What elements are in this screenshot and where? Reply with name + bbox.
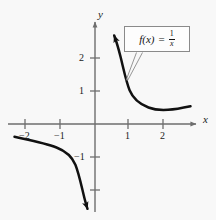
x-axis-label: x: [203, 114, 208, 125]
y-tick-label-pos2: 2: [79, 53, 84, 63]
function-label-callout: f(x) = 1 x: [124, 26, 190, 52]
x-tick-label-pos1: 1: [125, 131, 130, 141]
curve-branch-negative: [15, 137, 88, 209]
y-tick-label-neg1: −1: [74, 152, 85, 162]
y-axis-label: y: [98, 9, 103, 20]
x-tick-label-pos2: 2: [160, 131, 165, 141]
function-graph-figure: y x −2 −1 1 2 2 1 −1 f(x) = 1 x: [0, 0, 216, 220]
callout-leader-line: [126, 53, 143, 81]
function-formula: f(x) = 1 x: [139, 30, 174, 48]
fraction-numerator: 1: [169, 30, 175, 38]
y-tick-label-pos1: 1: [79, 86, 84, 96]
x-tick-label-neg2: −2: [19, 131, 30, 141]
formula-fraction: 1 x: [169, 30, 175, 48]
formula-equals-sign: =: [159, 34, 165, 45]
x-tick-label-neg1: −1: [54, 131, 65, 141]
formula-left-side: f(x): [139, 34, 154, 45]
fraction-denominator: x: [169, 40, 175, 48]
